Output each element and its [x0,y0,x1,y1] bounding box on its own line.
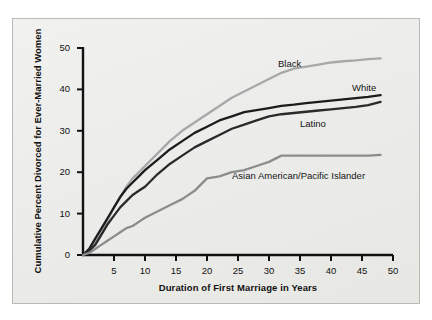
x-tick-label: 35 [289,265,311,276]
x-tick-label: 10 [134,265,156,276]
series-label-white: White [352,82,376,93]
y-axis-title-container: Cumulative Percent Divorced for Ever-Mar… [26,44,50,258]
x-tick-label: 25 [227,265,249,276]
x-tick-label: 40 [320,265,342,276]
y-tick-label: 50 [50,42,70,53]
x-tick-label: 15 [165,265,187,276]
series-label-black: Black [278,58,301,69]
x-tick-label: 20 [196,265,218,276]
y-tick-label: 0 [50,249,70,260]
series-label-latino: Latino [300,118,326,129]
series-label-asian-american-pacific-islander: Asian American/Pacific Islander [232,170,365,181]
x-tick-label: 45 [351,265,373,276]
x-axis-title: Duration of First Marriage in Years [83,282,393,293]
y-tick-label: 40 [50,83,70,94]
axes [83,47,393,255]
y-tick-label: 10 [50,208,70,219]
x-tick-label: 30 [258,265,280,276]
data-series-group [83,58,381,255]
y-tick-label: 20 [50,166,70,177]
y-tick-label: 30 [50,125,70,136]
x-tick-label: 50 [382,265,404,276]
figure: Cumulative Percent Divorced for Ever-Mar… [0,0,432,320]
x-tick-label: 5 [103,265,125,276]
y-axis-title: Cumulative Percent Divorced for Ever-Mar… [32,29,44,274]
